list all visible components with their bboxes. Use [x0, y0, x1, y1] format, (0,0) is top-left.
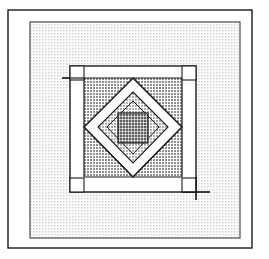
corner-square-bottom-right: [182, 178, 196, 192]
dark-gray-center-square: [118, 113, 148, 143]
quilt-block-diagram: [0, 0, 269, 259]
figure-canvas: [0, 0, 269, 259]
corner-square-top-right: [182, 66, 196, 80]
corner-square-bottom-left: [70, 178, 84, 192]
